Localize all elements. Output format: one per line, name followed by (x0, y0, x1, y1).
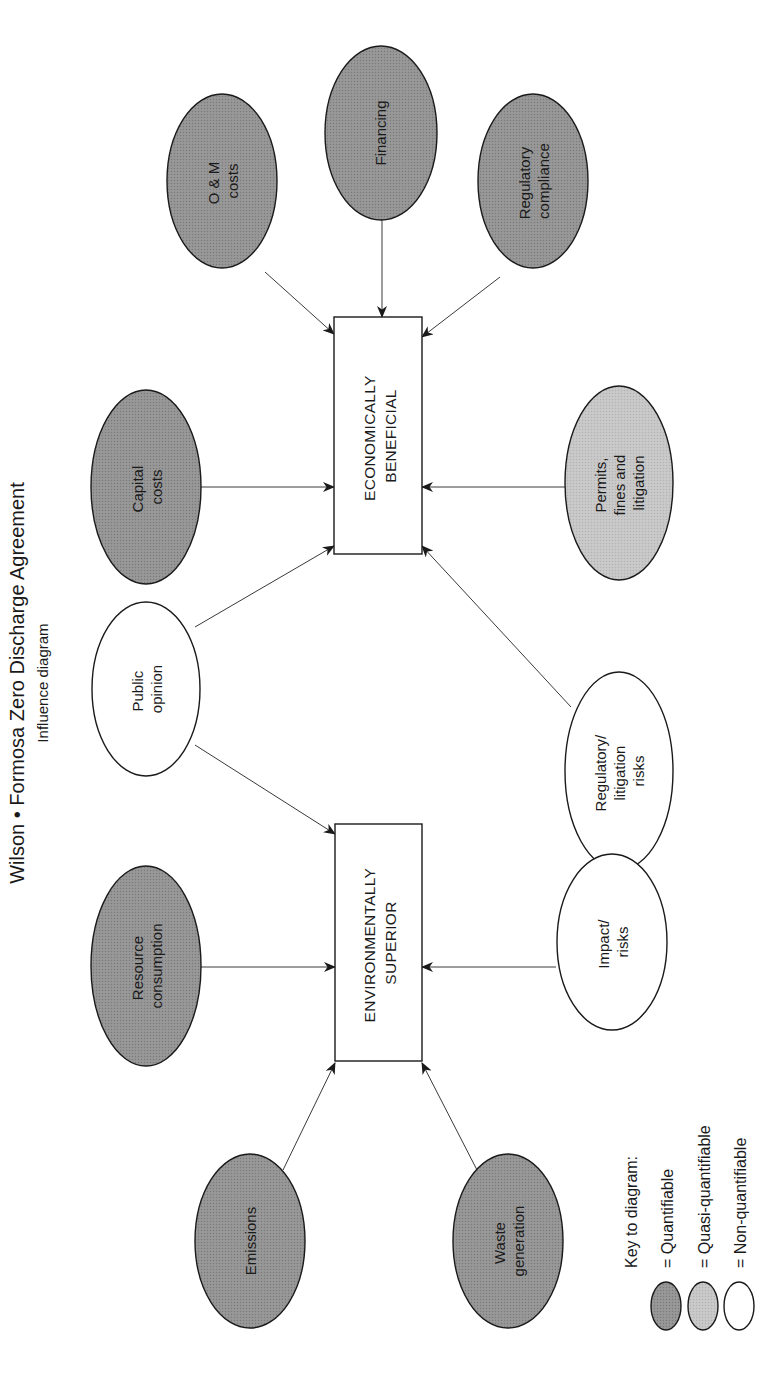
legend-title: Key to diagram: (623, 1156, 640, 1268)
influence-diagram: Wilson • Formosa Zero Discharge Agreemen… (0, 0, 774, 1396)
node-label-line1: O & M (205, 162, 222, 205)
svg-text:Permits, fines and: Permits, fines and litigation (592, 450, 647, 515)
node-regulatory-litigation-risks[interactable]: Regulatory/ litigation risks (565, 672, 673, 870)
legend-label: = Non-quantifiable (732, 1138, 749, 1268)
edge-reg-litigation-to-econ (422, 546, 571, 707)
edge-om-costs-to-econ (265, 272, 334, 334)
node-label-line2: opinion (148, 665, 165, 713)
legend-swatch-quantifiable (651, 1282, 681, 1330)
node-financing[interactable]: Financing (325, 46, 437, 220)
decision-economically-beneficial[interactable]: ECONOMICALLY BENEFICIAL (334, 317, 422, 554)
node-label-line1: Regulatory/ (592, 734, 609, 812)
node-waste-generation[interactable]: Waste generation (453, 1154, 563, 1328)
node-label-line2: consumption (148, 923, 165, 1008)
node-label-line1: Public (129, 670, 146, 711)
svg-text:Emissions: Emissions (242, 1207, 259, 1275)
node-om-costs[interactable]: O & M costs (167, 94, 277, 268)
node-label-line2: fines and (611, 455, 628, 516)
node-label-line2: litigation (611, 746, 628, 801)
decision-label-line2: BENEFICIAL (382, 389, 399, 483)
node-label-line3: litigation (630, 455, 647, 510)
legend-item-non-quantifiable: = Non-quantifiable (724, 1138, 754, 1330)
edge-waste-to-env (422, 1063, 477, 1170)
edge-public-opinion-to-econ (195, 546, 334, 627)
node-public-opinion[interactable]: Public opinion (92, 602, 200, 776)
node-label-line2: generation (510, 1206, 527, 1277)
node-impact-risks[interactable]: Impact/ risks (557, 854, 667, 1030)
legend-label: = Quantifiable (659, 1169, 676, 1268)
node-label-line2: risks (614, 927, 631, 958)
decision-label-line2: SUPERIOR (382, 901, 399, 984)
legend-swatch-non-quantifiable (724, 1282, 754, 1330)
node-label-line1: Resource (129, 936, 146, 1000)
node-label-line1: Capital (129, 466, 146, 513)
decision-label-line1: ECONOMICALLY (361, 376, 378, 501)
legend: Key to diagram: = Quantifiable = Quasi-q… (623, 1125, 754, 1330)
node-label-line2: costs (224, 163, 241, 198)
legend-label: = Quasi-quantifiable (696, 1125, 713, 1268)
node-label-line3: risks (630, 756, 647, 787)
node-label-line1: Financing (372, 100, 389, 165)
node-capital-costs[interactable]: Capital costs (91, 390, 201, 584)
node-permits-fines-litigation[interactable]: Permits, fines and litigation (565, 386, 673, 580)
diagram-title: Wilson • Formosa Zero Discharge Agreemen… (6, 482, 28, 884)
node-emissions[interactable]: Emissions (195, 1154, 305, 1328)
node-label-line1: Waste (491, 1222, 508, 1264)
node-resource-consumption[interactable]: Resource consumption (91, 866, 201, 1066)
decision-environmentally-superior[interactable]: ENVIRONMENTALLY SUPERIOR (335, 824, 422, 1061)
node-regulatory-compliance[interactable]: Regulatory compliance (478, 94, 588, 268)
legend-swatch-quasi-quantifiable (688, 1282, 718, 1330)
node-label-line2: compliance (535, 143, 552, 219)
legend-item-quasi-quantifiable: = Quasi-quantifiable (688, 1125, 718, 1330)
edge-public-opinion-to-env (195, 745, 335, 834)
edge-reg-compliance-to-econ (422, 277, 500, 337)
legend-item-quantifiable: = Quantifiable (651, 1169, 681, 1330)
node-label-line1: Permits, (592, 458, 609, 513)
svg-text:Financing: Financing (372, 100, 389, 165)
diagram-subtitle: Influence diagram (34, 623, 51, 742)
edge-emissions-to-env (283, 1063, 335, 1170)
node-label-line1: Emissions (242, 1207, 259, 1275)
decision-label-line1: ENVIRONMENTALLY (361, 868, 378, 1022)
node-label-line2: costs (148, 469, 165, 504)
node-label-line1: Regulatory (516, 146, 533, 219)
node-label-line1: Impact/ (595, 919, 612, 969)
